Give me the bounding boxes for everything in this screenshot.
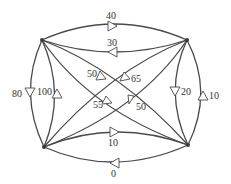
label-bottom-outer: 0 (111, 168, 116, 179)
node-bottom-right (186, 143, 190, 147)
arrow-right-icon (110, 127, 119, 137)
arrow-up-right-icon (128, 95, 134, 104)
arrow-up-icon (52, 89, 62, 98)
graph-svg: 40 30 80 100 20 10 10 0 50 65 55 50 (0, 0, 231, 184)
arrow-left-icon (110, 158, 119, 168)
arrow-up-icon (198, 91, 208, 100)
label-top-inner: 30 (107, 37, 117, 48)
graph-diagram: 40 30 80 100 20 10 10 0 50 65 55 50 (0, 0, 231, 184)
arrow-up-left-icon (102, 96, 112, 104)
arrow-down-right-icon (120, 72, 130, 81)
arrow-down-icon (25, 88, 35, 97)
arrow-left-icon (108, 47, 117, 57)
label-diag-br-tl: 55 (93, 99, 103, 110)
node-top-right (185, 38, 189, 42)
label-diag-bl-tr: 50 (136, 101, 146, 112)
node-top-left (40, 38, 44, 42)
arrow-right-icon (108, 21, 117, 31)
node-bottom-left (42, 145, 46, 149)
label-right-inner: 20 (181, 86, 191, 97)
label-bottom-inner: 10 (108, 137, 118, 148)
label-top-outer: 40 (106, 10, 116, 21)
label-right-outer: 10 (209, 90, 219, 101)
label-left-inner: 100 (37, 86, 52, 97)
label-diag-tl-br: 65 (131, 73, 141, 84)
label-left-outer: 80 (12, 88, 22, 99)
label-diag-tr-bl: 50 (87, 68, 97, 79)
arrow-down-icon (170, 87, 180, 96)
edge-labels: 40 30 80 100 20 10 10 0 50 65 55 50 (12, 10, 219, 179)
